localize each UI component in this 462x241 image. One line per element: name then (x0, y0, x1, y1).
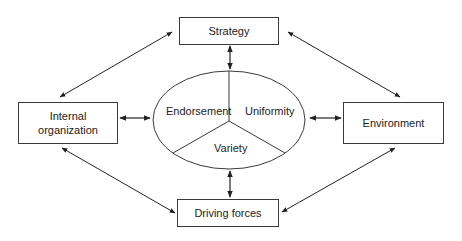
segment-variety-label: Variety (214, 142, 247, 154)
segment-uniformity-label: Uniformity (245, 105, 295, 117)
arrow-strategy-internal (60, 32, 172, 97)
arrow-internal-driving (62, 148, 175, 213)
node-environment-label: Environment (363, 116, 425, 130)
segment-endorsement-label: Endorsement (166, 105, 231, 117)
node-internal-label-line2: organization (38, 123, 98, 137)
node-driving-forces: Driving forces (177, 199, 279, 227)
node-driving-label: Driving forces (194, 206, 261, 220)
node-internal-label-line1: Internal (50, 109, 87, 123)
arrow-environment-driving (282, 148, 395, 212)
arrow-strategy-environment (288, 32, 400, 97)
node-strategy-label: Strategy (209, 24, 250, 38)
node-internal-organization: Internal organization (18, 102, 118, 144)
node-strategy: Strategy (179, 17, 279, 45)
node-environment: Environment (343, 102, 444, 144)
